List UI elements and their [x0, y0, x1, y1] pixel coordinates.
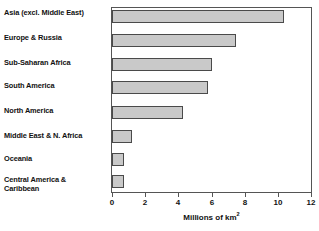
- bar-central-america-caribbean: [112, 175, 124, 188]
- category-label-asia: Asia (excl. Middle East): [4, 8, 108, 17]
- x-tick-12: [311, 193, 312, 197]
- bar-europe-russia: [112, 34, 236, 47]
- x-axis-title: Millions of km2: [111, 213, 312, 222]
- x-tick-label-6: 6: [201, 198, 223, 207]
- category-axis: Asia (excl. Middle East) Europe & Russia…: [0, 8, 108, 192]
- x-tick-label-8: 8: [234, 198, 256, 207]
- x-tick-label-10: 10: [267, 198, 289, 207]
- bar-asia: [112, 10, 284, 23]
- x-tick-10: [278, 193, 279, 197]
- x-tick-label-4: 4: [167, 198, 189, 207]
- category-label-central-america-caribbean: Central America & Caribbean: [4, 175, 108, 193]
- bars-layer: [112, 8, 311, 192]
- x-tick-label-2: 2: [134, 198, 156, 207]
- bar-north-america: [112, 106, 183, 119]
- category-label-north-america: North America: [4, 106, 108, 115]
- bar-chart: Asia (excl. Middle East) Europe & Russia…: [0, 0, 319, 231]
- x-tick-2: [145, 193, 146, 197]
- category-label-middle-east-n-africa: Middle East & N. Africa: [4, 131, 108, 140]
- bar-sub-saharan-africa: [112, 58, 212, 71]
- x-tick-8: [245, 193, 246, 197]
- bar-oceania: [112, 153, 124, 166]
- x-tick-0: [112, 193, 113, 197]
- x-tick-4: [178, 193, 179, 197]
- category-label-sub-saharan-africa: Sub-Saharan Africa: [4, 58, 108, 67]
- bar-middle-east-n-africa: [112, 130, 132, 143]
- x-tick-label-0: 0: [101, 198, 123, 207]
- category-label-south-america: South America: [4, 81, 108, 90]
- category-label-europe-russia: Europe & Russia: [4, 33, 108, 42]
- x-tick-6: [212, 193, 213, 197]
- x-tick-label-12: 12: [300, 198, 319, 207]
- category-label-oceania: Oceania: [4, 154, 108, 163]
- bar-south-america: [112, 81, 208, 94]
